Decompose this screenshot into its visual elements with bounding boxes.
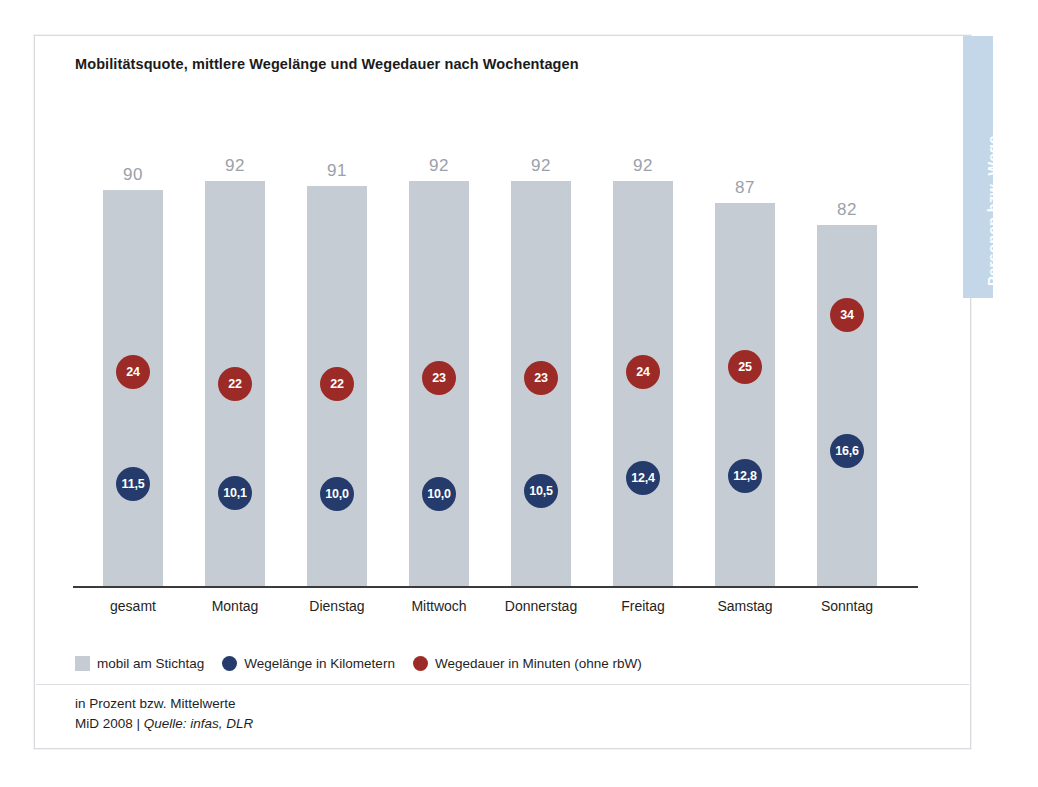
plot-area: 902411,5922210,1912210,0922310,0922310,5…	[75, 131, 915, 586]
legend-item[interactable]: mobil am Stichtag	[75, 656, 204, 671]
duration-marker[interactable]: 23	[524, 361, 558, 395]
distance-marker[interactable]: 11,5	[116, 467, 150, 501]
legend-circle-icon	[413, 656, 428, 671]
bar-value-label: 92	[409, 156, 469, 176]
duration-marker[interactable]: 22	[218, 367, 252, 401]
side-tab-personen-bzw-wege[interactable]: Personen bzw. Wege	[963, 36, 993, 298]
distance-marker[interactable]: 12,8	[728, 459, 762, 493]
bar[interactable]	[715, 203, 775, 586]
x-axis-label: gesamt	[83, 598, 183, 614]
x-axis-label: Dienstag	[287, 598, 387, 614]
duration-marker[interactable]: 25	[728, 350, 762, 384]
distance-marker[interactable]: 16,6	[830, 434, 864, 468]
bar-group: 922310,5	[511, 131, 571, 586]
legend-label: Wegelänge in Kilometern	[244, 656, 395, 671]
bar-value-label: 92	[511, 156, 571, 176]
legend-item[interactable]: Wegedauer in Minuten (ohne rbW)	[413, 656, 642, 671]
bar-group: 823416,6	[817, 131, 877, 586]
chart-legend: mobil am StichtagWegelänge in Kilometern…	[75, 656, 642, 671]
footer-source: MiD 2008 | Quelle: infas, DLR	[75, 714, 253, 734]
page-title: Mobilitätsquote, mittlere Wegelänge und …	[75, 56, 579, 72]
footer-note: in Prozent bzw. Mittelwerte	[75, 694, 253, 714]
bar-value-label: 90	[103, 165, 163, 185]
footer-source-prefix: MiD 2008 |	[75, 716, 144, 731]
x-axis-label: Mittwoch	[389, 598, 489, 614]
bar-group: 902411,5	[103, 131, 163, 586]
bar-value-label: 92	[205, 156, 265, 176]
x-axis-category-labels: gesamtMontagDienstagMittwochDonnerstagFr…	[75, 598, 915, 624]
x-axis-label: Donnerstag	[491, 598, 591, 614]
x-axis-label: Samstag	[695, 598, 795, 614]
distance-marker[interactable]: 10,5	[524, 474, 558, 508]
footer-source-text: Quelle: infas, DLR	[144, 716, 254, 731]
bar-value-label: 91	[307, 161, 367, 181]
x-axis-label: Sonntag	[797, 598, 897, 614]
legend-label: mobil am Stichtag	[97, 656, 204, 671]
bar-group: 922210,1	[205, 131, 265, 586]
bar-group: 912210,0	[307, 131, 367, 586]
duration-marker[interactable]: 34	[830, 298, 864, 332]
x-axis-label: Freitag	[593, 598, 693, 614]
x-axis-line	[73, 586, 918, 588]
bar-group: 922310,0	[409, 131, 469, 586]
duration-marker[interactable]: 22	[320, 367, 354, 401]
distance-marker[interactable]: 10,0	[422, 477, 456, 511]
distance-marker[interactable]: 10,0	[320, 477, 354, 511]
legend-item[interactable]: Wegelänge in Kilometern	[222, 656, 395, 671]
legend-circle-icon	[222, 656, 237, 671]
footer: in Prozent bzw. Mittelwerte MiD 2008 | Q…	[75, 694, 253, 733]
legend-label: Wegedauer in Minuten (ohne rbW)	[435, 656, 642, 671]
x-axis-label: Montag	[185, 598, 285, 614]
bar[interactable]	[817, 225, 877, 586]
bar-group: 872512,8	[715, 131, 775, 586]
chart-page-frame: Mobilitätsquote, mittlere Wegelänge und …	[34, 35, 971, 749]
bar-value-label: 82	[817, 200, 877, 220]
bar-value-label: 92	[613, 156, 673, 176]
footer-divider	[36, 684, 969, 685]
duration-marker[interactable]: 23	[422, 361, 456, 395]
legend-square-icon	[75, 656, 90, 671]
bar-value-label: 87	[715, 178, 775, 198]
bar-group: 922412,4	[613, 131, 673, 586]
side-tab-label: Personen bzw. Wege	[985, 135, 1001, 286]
